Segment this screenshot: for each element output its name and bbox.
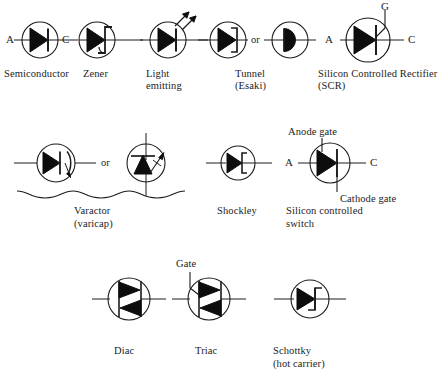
label-emitting: emitting	[146, 80, 182, 92]
terminal-gate-scr: G	[381, 0, 389, 12]
led-emission-arrows	[175, 12, 196, 30]
terminal-anode-semiconductor: A	[6, 33, 14, 45]
symbol-light-emitting-diode	[140, 12, 208, 58]
symbol-tunnel-diode-b	[264, 22, 316, 58]
label-anode-gate: Anode gate	[288, 126, 337, 138]
label-hot-carrier: (hot carrier)	[273, 358, 325, 370]
symbol-varactor-a	[14, 144, 96, 182]
symbol-silicon-controlled-switch	[298, 138, 366, 192]
label-scs-line2: switch	[286, 218, 314, 230]
symbol-silicon-controlled-rectifier	[340, 10, 404, 62]
symbol-triac	[172, 272, 246, 320]
label-triac: Triac	[195, 345, 217, 357]
symbol-varactor-b	[127, 133, 165, 196]
label-scs-line1: Silicon controlled	[286, 205, 363, 217]
label-varicap: (varicap)	[74, 218, 113, 230]
connector-or-varactor: or	[101, 157, 110, 169]
label-esaki: (Esaki)	[235, 80, 266, 92]
label-gate-triac: Gate	[176, 258, 196, 270]
symbol-schottky-diode	[274, 280, 346, 318]
terminal-cathode-semiconductor: C	[62, 33, 69, 45]
label-shockley: Shockley	[217, 205, 257, 217]
terminal-anode-scr: A	[325, 33, 333, 45]
label-zener: Zener	[83, 68, 108, 80]
label-semiconductor: Semiconductor	[4, 68, 69, 80]
symbol-zener-diode	[79, 22, 143, 58]
label-scr-line2: (SCR)	[318, 80, 345, 92]
label-cathode-gate: Cathode gate	[340, 193, 396, 205]
terminal-anode-scs: A	[285, 156, 293, 168]
symbol-sheet	[0, 0, 446, 383]
terminal-cathode-scs: C	[370, 156, 377, 168]
label-scr-line1: Silicon Controlled Rectifier	[318, 68, 437, 80]
label-schottky: Schottky	[273, 345, 311, 357]
label-varactor: Varactor	[74, 205, 110, 217]
symbol-shockley-diode	[206, 146, 272, 180]
label-tunnel: Tunnel	[235, 68, 265, 80]
label-diac: Diac	[114, 345, 134, 357]
varactor-brace	[17, 191, 185, 198]
symbol-tunnel-diode-a	[198, 22, 248, 58]
terminal-cathode-scr: C	[408, 33, 415, 45]
connector-or-tunnel: or	[251, 34, 260, 46]
label-light: Light	[146, 68, 169, 80]
symbol-diac	[92, 278, 166, 320]
